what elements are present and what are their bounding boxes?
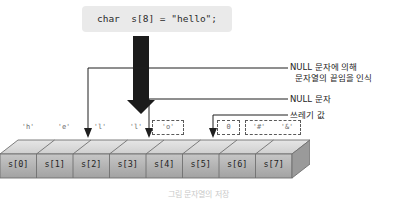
cell-index-5: s[5] [183,159,220,169]
cell-index-2: s[2] [73,159,110,169]
cell-index-7: s[7] [256,159,293,169]
code-declaration-box: char s[8] = "hello"; [82,6,232,32]
annotation-null-terminator-line1: NULL 문자에 의해 [290,62,372,73]
cell-index-3: s[3] [110,159,147,169]
annotation-null-terminator: NULL 문자에 의해 문자열의 끝임을 인식 [290,62,372,84]
figure-canvas: char s[8] = "hello"; NULL 문자에 의해 문자열의 끝임… [0,0,397,200]
cell-index-0: s[0] [0,159,37,169]
annotation-null-char-line1: NULL 문자 [290,94,331,105]
figure-caption: 그림 문자열의 저장 [0,188,397,200]
annotation-null-char: NULL 문자 [290,94,331,105]
cell-index-1: s[1] [37,159,74,169]
cell-index-6: s[6] [219,159,256,169]
annotation-null-terminator-line2: 문자열의 끝임을 인식 [290,73,372,84]
array-box [0,128,310,186]
code-declaration-text: char s[8] = "hello"; [82,6,232,32]
cell-index-4: s[4] [146,159,183,169]
